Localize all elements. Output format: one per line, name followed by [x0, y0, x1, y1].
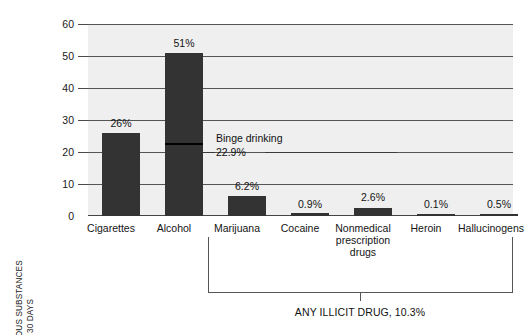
- y-tick-mark-40: [78, 88, 88, 89]
- x-axis-label-text: Marijuana: [203, 222, 271, 234]
- y-tick-mark-20: [78, 152, 88, 153]
- x-axis-label-cocaine: Cocaine: [266, 222, 334, 234]
- bar-value-cigarettes: 26%: [97, 118, 145, 129]
- bar-hallucinogens[interactable]: [480, 214, 518, 216]
- y-tick-mark-10: [78, 184, 88, 185]
- bar-value-hallucinogens: 0.5%: [475, 199, 523, 210]
- x-axis-label-nonmedical-prescription-drugs: Nonmedical prescription drugs: [329, 222, 397, 258]
- y-tick-mark-30: [78, 120, 88, 121]
- bracket-left-edge: [208, 237, 209, 293]
- x-axis-label-text: Cigarettes: [77, 222, 145, 234]
- gridline-10: [88, 184, 513, 185]
- bar-value-heroin: 0.1%: [412, 199, 460, 210]
- y-tick-label-10: 10: [48, 179, 74, 189]
- y-axis-title-line-1: PERCENT USING VARIOUS SUBSTANCES: [14, 232, 25, 335]
- x-axis-label-marijuana: Marijuana: [203, 222, 271, 234]
- x-axis-label-text-line-1: Nonmedical: [329, 222, 397, 234]
- bar-value-nonmedical-prescription-drugs: 2.6%: [349, 192, 397, 203]
- x-axis-label-hallucinogens: Hallucinogens: [450, 222, 532, 234]
- y-tick-mark-50: [78, 56, 88, 57]
- y-tick-label-40: 40: [48, 83, 74, 93]
- bar-cigarettes[interactable]: [102, 133, 140, 216]
- bar-nonmedical-prescription-drugs[interactable]: [354, 208, 392, 216]
- bracket-caption: ANY ILLICIT DRUG, 10.3%: [230, 306, 490, 318]
- bar-cocaine[interactable]: [291, 213, 329, 216]
- x-axis-label-text-line-2: prescription: [329, 234, 397, 246]
- binge-drinking-label-line-1: Binge drinking: [216, 132, 283, 145]
- y-tick-label-0: 0: [48, 211, 74, 221]
- y-tick-label-50: 50: [48, 51, 74, 61]
- y-tick-label-20: 20: [48, 147, 74, 157]
- x-axis-label-text: Cocaine: [266, 222, 334, 234]
- x-axis-label-alcohol: Alcohol: [140, 222, 208, 234]
- y-tick-mark-60: [78, 24, 88, 25]
- x-axis-label-text: Alcohol: [140, 222, 208, 234]
- binge-drinking-label-line-2: 22.9%: [216, 146, 246, 159]
- binge-drinking-leader-line: [203, 152, 215, 153]
- bar-value-marijuana: 6.2%: [223, 181, 271, 192]
- x-axis-label-cigarettes: Cigarettes: [77, 222, 145, 234]
- bar-value-alcohol: 51%: [160, 38, 208, 49]
- gridline-40: [88, 88, 513, 89]
- y-axis-title: PERCENT USING VARIOUS SUBSTANCES WITHIN …: [0, 0, 46, 240]
- y-tick-label-60: 60: [48, 19, 74, 29]
- plot-area: 26% 51% 6.2% 0.9% 2.6% 0.1% 0.5% Binge d…: [88, 24, 513, 216]
- bar-alcohol[interactable]: [165, 53, 203, 216]
- x-axis-label-text: Hallucinogens: [450, 222, 532, 234]
- gridline-50: [88, 56, 513, 57]
- bracket-stem: [360, 292, 361, 301]
- y-axis-tick-labels: 60 50 40 30 20 10 0: [48, 0, 74, 240]
- binge-drinking-leader-line-right: [265, 152, 397, 153]
- bracket-right-edge: [512, 237, 513, 293]
- y-tick-label-30: 30: [48, 115, 74, 125]
- gridline-30: [88, 120, 513, 121]
- bar-heroin[interactable]: [417, 214, 455, 216]
- x-axis-label-text-line-3: drugs: [329, 246, 397, 258]
- bar-chart: PERCENT USING VARIOUS SUBSTANCES WITHIN …: [0, 0, 532, 335]
- bar-marijuana[interactable]: [228, 196, 266, 216]
- gridline-60: [88, 24, 513, 25]
- binge-drinking-marker-line: [165, 143, 203, 145]
- y-axis-title-line-2: WITHIN PAST 30 DAYS: [25, 232, 36, 335]
- bar-value-cocaine: 0.9%: [286, 199, 334, 210]
